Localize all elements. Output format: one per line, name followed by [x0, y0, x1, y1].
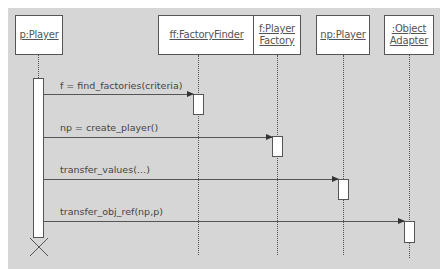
object-label: f:Player Factory — [259, 23, 295, 47]
message-label: transfer_values(…) — [60, 164, 150, 175]
message-label: transfer_obj_ref(np,p) — [60, 206, 163, 217]
lifeline-p-player — [38, 55, 39, 78]
object-object-adapter: :Object Adapter — [384, 15, 434, 55]
message-label: f = find_factories(criteria) — [60, 80, 183, 91]
arrowhead-icon — [187, 91, 194, 97]
activation-np-player — [338, 179, 349, 200]
object-p-player: p:Player — [15, 15, 63, 55]
object-label: p:Player — [19, 29, 58, 41]
object-factory-finder: ff:FactoryFinder — [158, 15, 255, 55]
message-arrow-create-player — [44, 137, 272, 138]
destruction-x-icon — [29, 237, 49, 257]
message-arrow-find-factories — [44, 94, 193, 95]
lifeline-np-player — [343, 55, 344, 255]
object-label: ff:FactoryFinder — [169, 29, 243, 41]
object-player-factory: f:Player Factory — [253, 15, 301, 55]
message-arrow-transfer-obj-ref — [44, 221, 404, 222]
message-label: np = create_player() — [60, 122, 158, 133]
object-label: :Object Adapter — [390, 23, 428, 47]
arrowhead-icon — [332, 176, 339, 182]
arrowhead-icon — [398, 218, 405, 224]
object-label: np:Player — [320, 29, 365, 41]
activation-p-player — [33, 78, 44, 238]
message-arrow-transfer-values — [44, 179, 338, 180]
activation-player-factory — [272, 136, 283, 157]
activation-factory-finder — [193, 94, 204, 115]
activation-object-adapter — [404, 221, 415, 243]
arrowhead-icon — [266, 134, 273, 140]
object-np-player: np:Player — [316, 15, 370, 55]
lifeline-factory-finder — [198, 55, 199, 255]
